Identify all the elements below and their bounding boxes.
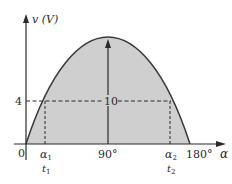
alpha2-label: α2 [165, 148, 177, 162]
level-label: 4 [15, 95, 22, 108]
peak-label: 10 [104, 95, 118, 108]
t2-label: t2 [167, 163, 176, 176]
sine-half-cycle-diagram: v (V) 4 10 0 α1 t1 90° α2 t2 180° α [0, 0, 232, 184]
origin-label: 0 [18, 147, 25, 160]
alpha1-label: α1 [40, 148, 52, 162]
t1-label: t1 [42, 163, 51, 176]
y-axis-arrow-icon [23, 14, 29, 23]
y-axis-label: v (V) [32, 13, 58, 26]
deg180-label: 180° [186, 148, 213, 161]
x-axis-label: α [220, 147, 228, 161]
deg90-label: 90° [98, 148, 118, 161]
